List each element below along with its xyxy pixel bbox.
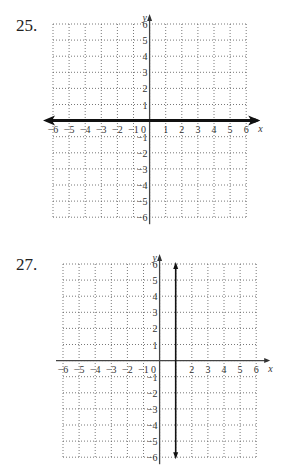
x-tick-label: −6 [58, 364, 69, 375]
y-tick-label: −4 [147, 420, 158, 431]
x-tick-label: 6 [244, 124, 249, 135]
axes: xy−6−5−4−3−2−1023456654321−1−2−3−4−5−6 [56, 252, 273, 464]
x-tick-label: 5 [238, 364, 243, 375]
y-tick-label: 3 [153, 307, 158, 318]
x-axis-label: x [257, 123, 263, 134]
y-tick-label: 6 [153, 259, 158, 270]
y-tick-label: 5 [153, 275, 158, 286]
x-tick-label: −5 [74, 364, 85, 375]
y-tick-label: −5 [137, 196, 148, 207]
y-tick-label: −4 [137, 180, 148, 191]
y-tick-label: −1 [137, 132, 148, 143]
y-tick-label: 5 [143, 35, 148, 46]
y-tick-label: −6 [137, 212, 148, 223]
y-tick-label: 6 [143, 19, 148, 30]
x-tick-label: −2 [112, 124, 123, 135]
x-tick-label: 3 [205, 364, 210, 375]
y-tick-label: 1 [143, 100, 148, 111]
x-tick-label: 2 [179, 124, 184, 135]
x-tick-label: 3 [195, 124, 200, 135]
x-tick-label: 5 [228, 124, 233, 135]
y-tick-label: 4 [143, 51, 148, 62]
x-tick-label: −2 [122, 364, 133, 375]
x-tick-label: 6 [254, 364, 259, 375]
y-tick-label: −5 [147, 436, 158, 447]
x-tick-label: 4 [212, 124, 217, 135]
x-axis-label: x [267, 363, 273, 374]
y-tick-label: 3 [143, 67, 148, 78]
charts-canvas: xy−6−5−4−3−2−10123456654321−1−2−3−4−5−6x… [0, 0, 281, 476]
x-tick-label: 4 [222, 364, 227, 375]
x-tick-label: −5 [64, 124, 75, 135]
y-tick-label: 2 [153, 323, 158, 334]
y-tick-label: −2 [147, 388, 158, 399]
y-tick-label: 2 [143, 83, 148, 94]
y-tick-label: −3 [147, 404, 158, 415]
y-tick-label: 4 [153, 291, 158, 302]
x-tick-label: −4 [90, 364, 101, 375]
y-tick-label: −6 [147, 452, 158, 463]
x-tick-label: 2 [189, 364, 194, 375]
y-tick-label: −3 [137, 164, 148, 175]
y-tick-label: 1 [153, 340, 158, 351]
x-tick-label: −3 [96, 124, 107, 135]
axes: xy−6−5−4−3−2−10123456654321−1−2−3−4−5−6 [46, 12, 263, 224]
chart-1: xy−6−5−4−3−2−1023456654321−1−2−3−4−5−6 [56, 252, 273, 464]
y-tick-label: −2 [137, 148, 148, 159]
x-tick-label: 1 [163, 124, 168, 135]
x-tick-label: −6 [48, 124, 59, 135]
x-tick-label: −3 [106, 364, 117, 375]
y-tick-label: −1 [147, 372, 158, 383]
chart-0: xy−6−5−4−3−2−10123456654321−1−2−3−4−5−6 [43, 12, 263, 224]
x-tick-label: −4 [80, 124, 91, 135]
